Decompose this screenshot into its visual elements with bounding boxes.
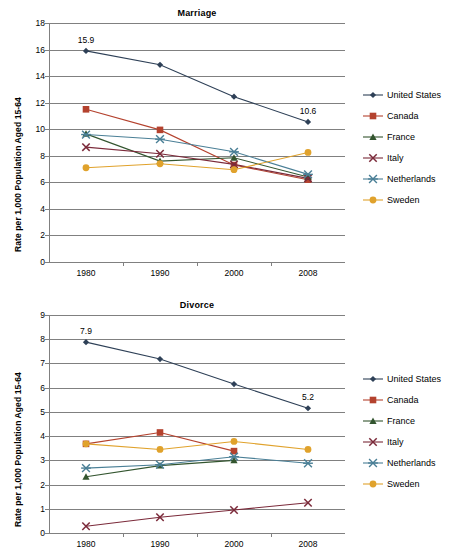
data-point-netherlands — [81, 464, 91, 472]
series-line-netherlands — [86, 457, 308, 468]
x-tick-label: 2000 — [225, 539, 244, 549]
series-line-united-states — [86, 342, 308, 408]
legend-item-italy[interactable]: Italy — [362, 431, 441, 452]
legend-item-france[interactable]: France — [362, 410, 441, 431]
series-line-italy — [86, 147, 308, 178]
series-line-italy — [86, 503, 308, 526]
y-tick-mark — [45, 533, 49, 534]
triangle-marker-icon — [362, 131, 384, 143]
x-tick-mark — [197, 533, 198, 537]
x-tick-mark — [271, 533, 272, 537]
legend-item-canada[interactable]: Canada — [362, 105, 441, 126]
divorce-chart-title: Divorce — [49, 300, 345, 310]
divorce-chart: Divorce Rate per 1,000 Population Aged 1… — [0, 288, 466, 555]
data-point-canada — [83, 106, 90, 113]
data-label: 10.6 — [300, 106, 317, 116]
legend-label: France — [387, 416, 415, 426]
legend-item-france[interactable]: France — [362, 126, 441, 147]
legend-item-united-states[interactable]: United States — [362, 368, 441, 389]
marriage-chart-title: Marriage — [49, 8, 345, 18]
legend-label: Netherlands — [387, 174, 436, 184]
legend-item-netherlands[interactable]: Netherlands — [362, 452, 441, 473]
data-point-sweden — [83, 164, 90, 171]
x-marker-icon — [362, 152, 384, 164]
legend-item-canada[interactable]: Canada — [362, 389, 441, 410]
legend-label: Canada — [387, 395, 419, 405]
asterisk-marker-icon — [362, 173, 384, 185]
legend-label: Sweden — [387, 479, 420, 489]
series-line-canada — [86, 109, 308, 179]
x-tick-label: 2008 — [299, 539, 318, 549]
triangle-marker-icon — [362, 415, 384, 427]
data-point-sweden — [157, 160, 164, 167]
legend-label: United States — [387, 374, 441, 384]
data-point-sweden — [83, 440, 90, 447]
x-tick-mark — [123, 533, 124, 537]
y-tick-mark — [45, 262, 49, 263]
y-tick-label: 18 — [36, 18, 45, 28]
data-point-sweden — [305, 149, 312, 156]
legend-label: Italy — [387, 153, 404, 163]
data-point-united-states — [305, 119, 311, 125]
asterisk-marker-icon — [362, 457, 384, 469]
y-tick-label: 14 — [36, 71, 45, 81]
marriage-y-axis-title: Rate per 1,000 Population Aged 15-64 — [13, 97, 23, 252]
data-point-united-states — [83, 48, 89, 54]
data-point-united-states — [157, 62, 163, 68]
legend-label: Italy — [387, 437, 404, 447]
y-tick-label: 12 — [36, 98, 45, 108]
data-point-united-states — [157, 356, 163, 362]
series-line-france — [86, 134, 308, 177]
series-layer — [49, 23, 345, 262]
legend-item-sweden[interactable]: Sweden — [362, 473, 441, 494]
data-point-sweden — [231, 438, 238, 445]
legend-label: United States — [387, 90, 441, 100]
series-line-sweden — [86, 441, 308, 449]
legend-item-sweden[interactable]: Sweden — [362, 189, 441, 210]
data-point-sweden — [157, 446, 164, 453]
x-tick-label: 2008 — [299, 268, 318, 278]
data-label: 5.2 — [302, 392, 314, 402]
x-tick-label: 1980 — [77, 539, 96, 549]
data-point-netherlands — [155, 135, 165, 143]
x-tick-mark — [271, 262, 272, 266]
data-point-united-states — [83, 339, 89, 345]
marriage-chart: Marriage Rate per 1,000 Population Aged … — [0, 0, 466, 288]
circle-marker-icon — [362, 194, 384, 206]
diamond-marker-icon — [362, 89, 384, 101]
legend-label: Canada — [387, 111, 419, 121]
legend-label: Netherlands — [387, 458, 436, 468]
divorce-plot-area: 012345678919801990200020087.95.2 — [49, 315, 345, 533]
data-point-united-states — [305, 405, 311, 411]
x-tick-mark — [123, 262, 124, 266]
divorce-legend: United StatesCanadaFranceItalyNetherland… — [362, 368, 441, 494]
data-label: 7.9 — [80, 326, 92, 336]
legend-item-italy[interactable]: Italy — [362, 147, 441, 168]
marriage-plot-area: 024681012141618198019902000200815.910.6 — [49, 23, 345, 262]
series-layer — [49, 315, 345, 533]
y-tick-label: 16 — [36, 45, 45, 55]
legend-label: Sweden — [387, 195, 420, 205]
square-marker-icon — [362, 394, 384, 406]
marriage-legend: United StatesCanadaFranceItalyNetherland… — [362, 84, 441, 210]
diamond-marker-icon — [362, 373, 384, 385]
circle-marker-icon — [362, 478, 384, 490]
series-line-sweden — [86, 152, 308, 169]
x-tick-label: 1990 — [151, 539, 170, 549]
divorce-y-axis-title: Rate per 1,000 Population Aged 15-64 — [13, 372, 23, 527]
legend-item-netherlands[interactable]: Netherlands — [362, 168, 441, 189]
data-point-united-states — [231, 94, 237, 100]
data-point-sweden — [305, 446, 312, 453]
data-point-sweden — [231, 166, 238, 173]
data-point-canada — [157, 429, 164, 436]
data-point-united-states — [231, 381, 237, 387]
data-point-canada — [157, 127, 164, 134]
x-tick-label: 1990 — [151, 268, 170, 278]
x-marker-icon — [362, 436, 384, 448]
x-tick-label: 2000 — [225, 268, 244, 278]
square-marker-icon — [362, 110, 384, 122]
legend-item-united-states[interactable]: United States — [362, 84, 441, 105]
y-tick-label: 10 — [36, 124, 45, 134]
x-tick-label: 1980 — [77, 268, 96, 278]
data-point-netherlands — [303, 459, 313, 467]
